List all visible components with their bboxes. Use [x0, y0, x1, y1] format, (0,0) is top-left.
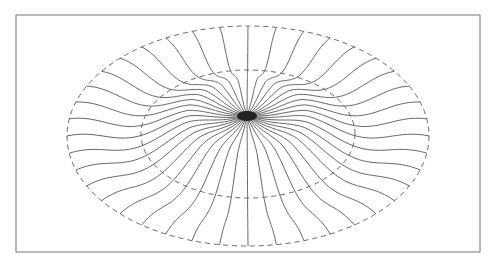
- field-line: [247, 116, 304, 241]
- field-line: [247, 71, 394, 116]
- center-dark-point: [237, 111, 257, 121]
- field-line: [247, 116, 409, 186]
- field-line: [192, 31, 247, 116]
- field-line: [67, 116, 247, 139]
- field-line: [87, 116, 247, 186]
- field-lines-diagram: [0, 0, 497, 267]
- inner-dashed-ellipse: [141, 70, 355, 198]
- field-line: [120, 58, 247, 116]
- field-line: [87, 86, 247, 116]
- field-line: [102, 71, 247, 116]
- field-line: [192, 116, 247, 241]
- field-line: [247, 116, 429, 139]
- field-line: [247, 31, 304, 116]
- field-line: [247, 86, 409, 116]
- field-line: [247, 116, 276, 245]
- field-line: [247, 26, 248, 116]
- field-line: [247, 116, 420, 170]
- radial-wave-lines: [67, 26, 429, 246]
- field-line: [247, 38, 330, 116]
- field-line: [247, 116, 248, 246]
- field-line: [76, 116, 247, 170]
- field-line: [166, 38, 247, 116]
